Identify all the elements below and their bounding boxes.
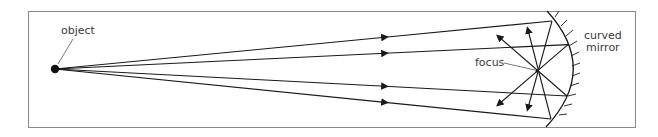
reflected-ray-4 [528,30,551,119]
focus-point [535,69,538,72]
incident-rays [55,21,568,119]
mirror-diagram: object focus curved mirror [0,0,658,137]
focus-label: focus [475,56,505,69]
incident-ray-4 [55,69,551,119]
object-label: object [61,24,96,37]
object-leader-line [58,39,73,64]
object-dot [51,65,59,73]
incident-ray-3 [55,69,567,96]
diagram-frame [29,12,636,128]
mirror-label-line2: mirror [586,41,620,54]
